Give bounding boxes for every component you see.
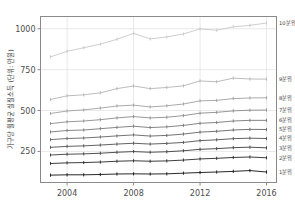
- series-label-1분위: 1분위: [279, 168, 292, 176]
- x-tick-label: 2016: [256, 189, 276, 198]
- x-tick-label: 2012: [190, 189, 210, 198]
- series-label-3분위: 3분위: [279, 144, 292, 152]
- series-label-6분위: 6분위: [279, 116, 292, 124]
- series-label-10분위: 10분위: [279, 19, 295, 27]
- y-tick-label: 1000: [15, 25, 35, 34]
- y-axis-label: 가구당 월평균 실질소득 (단위: 만원): [6, 49, 15, 148]
- series-label-8분위: 8분위: [279, 94, 292, 102]
- series-label-2분위: 2분위: [279, 154, 292, 162]
- y-tick-label: 250: [20, 147, 35, 156]
- series-label-7분위: 7분위: [279, 106, 292, 114]
- x-tick-label: 2008: [123, 189, 143, 198]
- y-tick-label: 500: [20, 107, 35, 116]
- series-label-5분위: 5분위: [279, 125, 292, 133]
- x-tick-label: 2004: [57, 189, 77, 198]
- income-decile-line-chart: 2505007501000 2004200820122016 10분위9분위8분…: [0, 0, 295, 214]
- chart-canvas: 2505007501000 2004200820122016 10분위9분위8분…: [0, 0, 295, 214]
- series-label-9분위: 9분위: [279, 75, 292, 83]
- y-tick-label: 750: [20, 66, 35, 75]
- series-label-4분위: 4분위: [279, 134, 292, 142]
